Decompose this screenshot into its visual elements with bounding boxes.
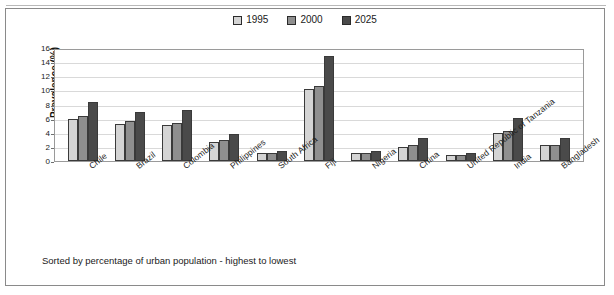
legend-entry: 2025 xyxy=(342,15,377,25)
chart-caption: Sorted by percentage of urban population… xyxy=(42,255,296,266)
y-tick-label: 12 xyxy=(32,73,50,81)
legend-label: 1995 xyxy=(246,15,268,25)
bar xyxy=(78,116,88,161)
bar xyxy=(162,125,172,161)
legend-entry: 2000 xyxy=(287,15,322,25)
scan-rule-line xyxy=(6,5,606,6)
legend-swatch-icon xyxy=(233,16,242,25)
y-tick-label: 4 xyxy=(32,130,50,138)
y-axis-ticks: 0246810121416 xyxy=(32,49,50,162)
bar xyxy=(446,155,456,161)
bar xyxy=(172,123,182,161)
bar xyxy=(408,145,418,161)
bar xyxy=(135,112,145,161)
legend-label: 2025 xyxy=(355,15,377,25)
y-tick-label: 2 xyxy=(32,144,50,152)
legend-swatch-icon xyxy=(342,16,351,25)
bar xyxy=(219,140,229,161)
bar xyxy=(267,153,277,161)
scan-artifact-top xyxy=(0,0,614,7)
legend-label: 2000 xyxy=(300,15,322,25)
bar xyxy=(550,145,560,161)
plot-wrapper: Prevalence (%) 0246810121416 xyxy=(54,49,584,169)
y-tick-label: 10 xyxy=(32,87,50,95)
bar xyxy=(361,153,371,161)
y-tick-label: 16 xyxy=(32,45,50,53)
plot-area xyxy=(54,49,584,162)
y-tick-label: 6 xyxy=(32,116,50,124)
bar xyxy=(324,56,334,161)
y-tick-label: 0 xyxy=(32,158,50,166)
bar-group xyxy=(446,50,476,161)
legend-swatch-icon xyxy=(287,16,296,25)
bar xyxy=(540,145,550,161)
bar xyxy=(398,147,408,161)
bar xyxy=(88,102,98,161)
bar xyxy=(68,119,78,161)
bar-group xyxy=(115,50,145,161)
bar-group xyxy=(398,50,428,161)
y-tick-label: 8 xyxy=(32,102,50,110)
bar xyxy=(351,153,361,161)
chart-legend: 199520002025 xyxy=(6,15,604,25)
bar xyxy=(182,110,192,161)
y-tick-label: 14 xyxy=(32,59,50,67)
x-axis-category-labels: ChileBrazilColombiaPhilippinesSouth Afri… xyxy=(54,163,584,243)
bar xyxy=(257,153,267,161)
bar-group xyxy=(68,50,98,161)
legend-entry: 1995 xyxy=(233,15,268,25)
bar xyxy=(125,121,135,161)
bar xyxy=(115,124,125,161)
bar xyxy=(456,155,466,161)
chart-figure-frame: 199520002025 Prevalence (%) 024681012141… xyxy=(5,8,605,286)
bar-group xyxy=(351,50,381,161)
bar-group xyxy=(162,50,192,161)
bar xyxy=(314,86,324,161)
